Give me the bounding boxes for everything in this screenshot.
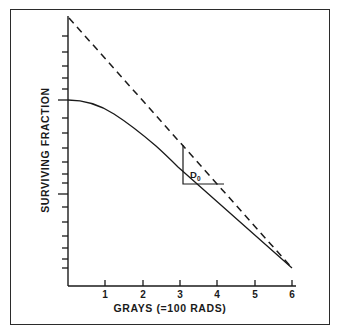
x-tick-label-2: 2: [140, 289, 146, 300]
x-tick-label-5: 5: [252, 289, 258, 300]
x-tick-label-6: 6: [289, 289, 295, 300]
x-tick-label-4: 4: [214, 289, 220, 300]
survival-curve-line: [68, 100, 292, 268]
y-axis-decade-ticks: [58, 100, 68, 194]
d0-label-subscript: 0: [197, 175, 201, 182]
y-axis-minor-ticks: [62, 36, 68, 268]
d0-label: D: [190, 169, 197, 180]
y-axis-title: SURVIVING FRACTION: [39, 87, 51, 213]
x-axis-ticks: [105, 280, 292, 286]
survival-curve-plot: 1 2 3 4 5 6 D 0 GRAYS (=100 RADS) SURVIV…: [0, 0, 341, 334]
x-tick-label-1: 1: [102, 289, 108, 300]
x-tick-label-3: 3: [177, 289, 183, 300]
x-axis-title: GRAYS (=100 RADS): [114, 302, 227, 314]
extrapolation-dashed-line: [69, 18, 292, 268]
figure-root: 1 2 3 4 5 6 D 0 GRAYS (=100 RADS) SURVIV…: [0, 0, 341, 334]
